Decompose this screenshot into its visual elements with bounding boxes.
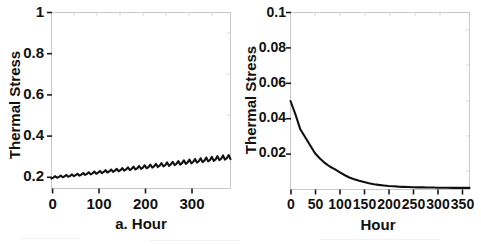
x-tick-label: 350 [451, 196, 475, 212]
chart-panel-a: 1 0.8 0.6 0.4 0.2 Thermal Stress [0, 0, 240, 246]
x-tick-label: 50 [308, 196, 324, 212]
x-axis-title: a. Hour [115, 215, 167, 232]
x-tick-label: 300 [426, 196, 450, 212]
y-tick-label: 0.04 [259, 109, 286, 125]
y-tick-label: 1 [36, 3, 44, 20]
x-tick-label: 250 [402, 196, 426, 212]
scan-artifact [150, 240, 240, 241]
chart-b-svg: 0.1 0.08 0.06 0.04 0.02 Thermal Stress [240, 0, 481, 246]
y-tick-label: 0.02 [259, 144, 286, 160]
plot-frame [291, 13, 470, 190]
y-tick-label: 0.2 [23, 167, 44, 184]
chart-a-svg: 1 0.8 0.6 0.4 0.2 Thermal Stress [0, 0, 240, 246]
minor-tick-group [74, 13, 231, 157]
x-tick-label: 0 [287, 196, 295, 212]
x-tick-label: 0 [48, 195, 56, 212]
y-tick-label: 0.6 [23, 85, 44, 102]
y-tick-label: 0.8 [23, 44, 44, 61]
x-tick-label: 300 [179, 195, 204, 212]
y-tick-label: 0.08 [259, 39, 286, 55]
scan-artifact [20, 238, 80, 239]
x-tick-label: 200 [133, 195, 158, 212]
y-tick-label: 0.1 [267, 4, 287, 20]
x-tick-label: 200 [377, 196, 401, 212]
minor-tick-group [315, 13, 470, 172]
x-tick-label: 100 [328, 196, 352, 212]
x-tick-label: 150 [353, 196, 377, 212]
x-axis-title: Hour [361, 216, 396, 233]
y-axis-title: Thermal Stress [242, 46, 259, 154]
scan-artifact [320, 239, 440, 240]
x-tick-label: 100 [86, 195, 111, 212]
y-axis-title: Thermal Stress [6, 51, 23, 159]
chart-panel-b: 0.1 0.08 0.06 0.04 0.02 Thermal Stress [240, 0, 481, 246]
y-tick-label: 0.06 [259, 74, 286, 90]
series-line-b [291, 101, 470, 188]
y-tick-label: 0.4 [23, 126, 45, 143]
series-line-a [52, 155, 231, 178]
figure-container: 1 0.8 0.6 0.4 0.2 Thermal Stress [0, 0, 481, 246]
